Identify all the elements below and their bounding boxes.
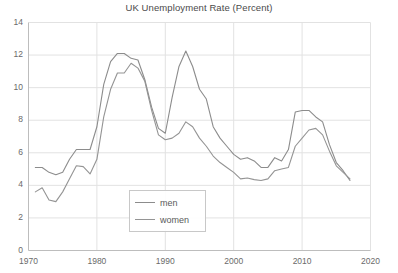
x-tick-label: 1980 bbox=[77, 256, 117, 266]
y-tick-label: 10 bbox=[2, 82, 23, 92]
legend-item-men: men bbox=[135, 194, 197, 211]
y-tick-label: 8 bbox=[2, 114, 23, 124]
y-tick-label: 4 bbox=[2, 179, 23, 189]
unemployment-line-chart: UK Unemployment Rate (Percent) 141210864… bbox=[0, 0, 398, 273]
y-tick-label: 2 bbox=[2, 212, 23, 222]
x-tick-label: 1990 bbox=[145, 256, 185, 266]
legend-line-swatch-men bbox=[135, 202, 155, 204]
legend-label-men: men bbox=[160, 198, 178, 208]
series-line-men bbox=[35, 51, 350, 180]
legend-line-swatch-women bbox=[135, 219, 155, 221]
legend-item-women: women bbox=[135, 211, 197, 228]
y-tick-label: 0 bbox=[2, 245, 23, 255]
plot-canvas bbox=[0, 0, 398, 273]
legend-label-women: women bbox=[160, 215, 189, 225]
data-series-group bbox=[35, 51, 350, 202]
series-line-women bbox=[35, 63, 350, 201]
chart-legend: men women bbox=[129, 190, 206, 232]
x-tick-label: 1970 bbox=[9, 256, 49, 266]
x-tick-label: 2010 bbox=[282, 256, 322, 266]
x-tick-label: 2020 bbox=[351, 256, 391, 266]
y-tick-label: 14 bbox=[2, 17, 23, 27]
x-tick-label: 2000 bbox=[214, 256, 254, 266]
y-tick-label: 12 bbox=[2, 49, 23, 59]
y-tick-label: 6 bbox=[2, 147, 23, 157]
